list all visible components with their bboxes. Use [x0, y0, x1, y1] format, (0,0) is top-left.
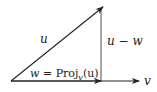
label-proj: Proj: [56, 67, 79, 80]
label-proj-arg: (u): [83, 67, 99, 80]
label-v: v: [144, 74, 151, 88]
projection-diagram: u u − w v w = Projv(u): [0, 0, 157, 92]
label-u-minus-w: u − w: [107, 34, 143, 48]
label-w-eq: w =: [30, 67, 56, 80]
label-u: u: [40, 32, 48, 46]
label-w-projection: w = Projv(u): [30, 67, 99, 82]
